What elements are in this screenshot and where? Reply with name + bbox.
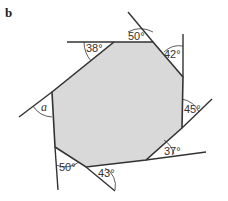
angle-label-45: 45°: [184, 103, 201, 115]
octagon-diagram: 38° 50° 42° 45° 37° 43° 50° a: [0, 0, 228, 201]
angle-label-50-bottom: 50°: [59, 161, 76, 173]
angle-label-a: a: [41, 100, 47, 114]
angle-label-42: 42°: [164, 48, 181, 60]
angle-label-38: 38°: [86, 42, 103, 54]
angle-label-37: 37°: [164, 145, 181, 157]
angle-label-43: 43°: [98, 167, 115, 179]
angle-label-50-top: 50°: [128, 30, 145, 42]
